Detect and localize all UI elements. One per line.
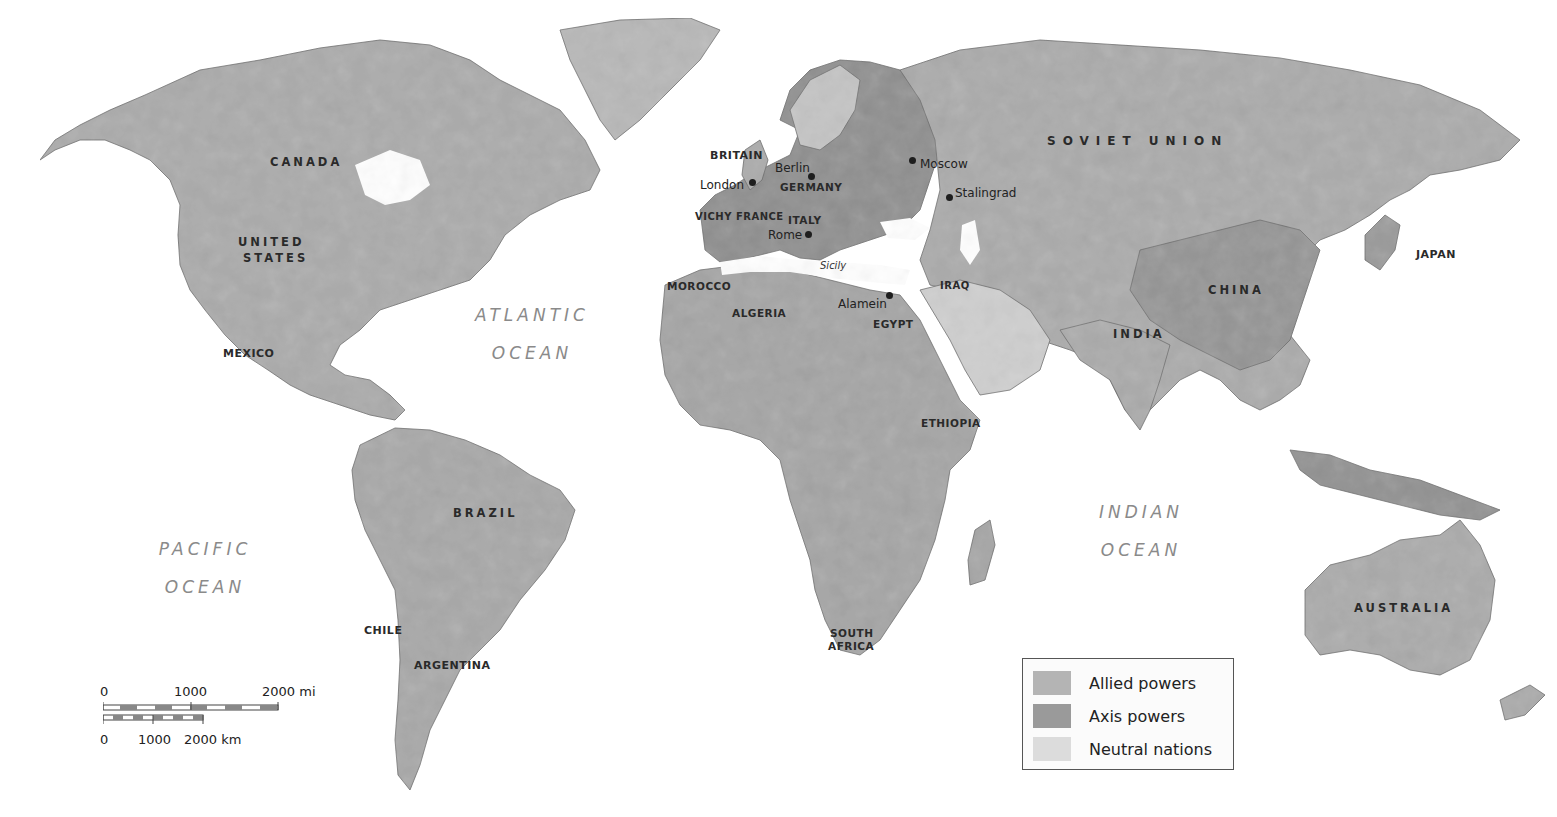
indian-line1: INDIAN <box>1076 493 1206 531</box>
label-australia: AUSTRALIA <box>1354 601 1453 615</box>
japan-land <box>1365 215 1400 270</box>
label-germany: GERMANY <box>780 181 842 193</box>
madagascar-land <box>968 520 995 585</box>
pacific-line2: OCEAN <box>140 568 270 606</box>
atlantic-ocean-label: ATLANTIC OCEAN <box>462 296 602 372</box>
atlantic-line1: ATLANTIC <box>462 296 602 334</box>
scale-km-1000: 1000 <box>138 732 171 747</box>
legend-item-axis: Axis powers <box>1033 704 1185 728</box>
london-dot-icon <box>749 179 756 186</box>
allied-swatch-icon <box>1033 671 1071 695</box>
new-zealand-land <box>1500 685 1545 720</box>
indonesia-land <box>1290 450 1500 520</box>
moscow-dot-icon <box>909 157 916 164</box>
label-algeria: ALGERIA <box>732 307 786 319</box>
label-japan: JAPAN <box>1416 248 1456 261</box>
label-us-line2: STATES <box>243 251 308 265</box>
indian-ocean-label: INDIAN OCEAN <box>1076 493 1206 569</box>
label-alamein: Alamein <box>838 297 887 311</box>
label-italy: ITALY <box>788 214 822 226</box>
south-america-land <box>352 428 575 790</box>
axis-swatch-icon <box>1033 704 1071 728</box>
scale-mi-1000: 1000 <box>174 684 207 699</box>
legend-label-neutral: Neutral nations <box>1089 740 1212 759</box>
legend-label-axis: Axis powers <box>1089 707 1185 726</box>
label-london: London <box>700 178 744 192</box>
label-rome: Rome <box>768 228 802 242</box>
label-berlin: Berlin <box>775 161 810 175</box>
label-china: CHINA <box>1208 283 1264 297</box>
rome-dot-icon <box>805 231 812 238</box>
australia-land <box>1305 520 1495 675</box>
legend-item-allied: Allied powers <box>1033 671 1196 695</box>
legend-label-allied: Allied powers <box>1089 674 1196 693</box>
label-egypt: EGYPT <box>873 318 914 330</box>
greenland-land <box>560 18 720 140</box>
label-south-africa-line2: AFRICA <box>828 640 874 652</box>
label-canada: CANADA <box>270 155 342 169</box>
scale-mi-2000: 2000 mi <box>262 684 316 699</box>
stalingrad-dot-icon <box>946 194 953 201</box>
label-iraq: IRAQ <box>940 280 970 291</box>
label-argentina: ARGENTINA <box>414 659 491 672</box>
label-mexico: MEXICO <box>223 347 274 360</box>
label-stalingrad: Stalingrad <box>955 186 1016 200</box>
label-britain: BRITAIN <box>710 149 763 162</box>
label-moscow: Moscow <box>920 157 968 171</box>
label-soviet-union: SOVIET UNION <box>1047 134 1228 148</box>
label-india: INDIA <box>1113 327 1165 341</box>
label-ethiopia: ETHIOPIA <box>921 417 981 429</box>
legend-item-neutral: Neutral nations <box>1033 737 1212 761</box>
pacific-ocean-label: PACIFIC OCEAN <box>140 530 270 606</box>
label-sicily: Sicily <box>820 260 846 271</box>
map-legend: Allied powers Axis powers Neutral nation… <box>1022 658 1234 770</box>
africa-land <box>660 265 980 655</box>
black-sea <box>880 218 930 240</box>
label-brazil: BRAZIL <box>453 506 517 520</box>
neutral-swatch-icon <box>1033 737 1071 761</box>
scale-km-0: 0 <box>100 732 108 747</box>
scale-km-2000: 2000 km <box>184 732 241 747</box>
scale-mi-0: 0 <box>100 684 108 699</box>
alamein-dot-icon <box>886 292 893 299</box>
label-us-line1: UNITED <box>238 235 305 249</box>
label-morocco: MOROCCO <box>667 280 731 292</box>
scale-bar-graphic <box>103 702 283 726</box>
pacific-line1: PACIFIC <box>140 530 270 568</box>
indian-line2: OCEAN <box>1076 531 1206 569</box>
label-south-africa-line1: SOUTH <box>830 627 873 639</box>
label-chile: CHILE <box>364 624 402 637</box>
atlantic-line2: OCEAN <box>462 334 602 372</box>
label-vichy-france: VICHY FRANCE <box>695 211 784 222</box>
scale-bar: 0 1000 2000 mi 0 1000 2000 km <box>100 684 340 754</box>
